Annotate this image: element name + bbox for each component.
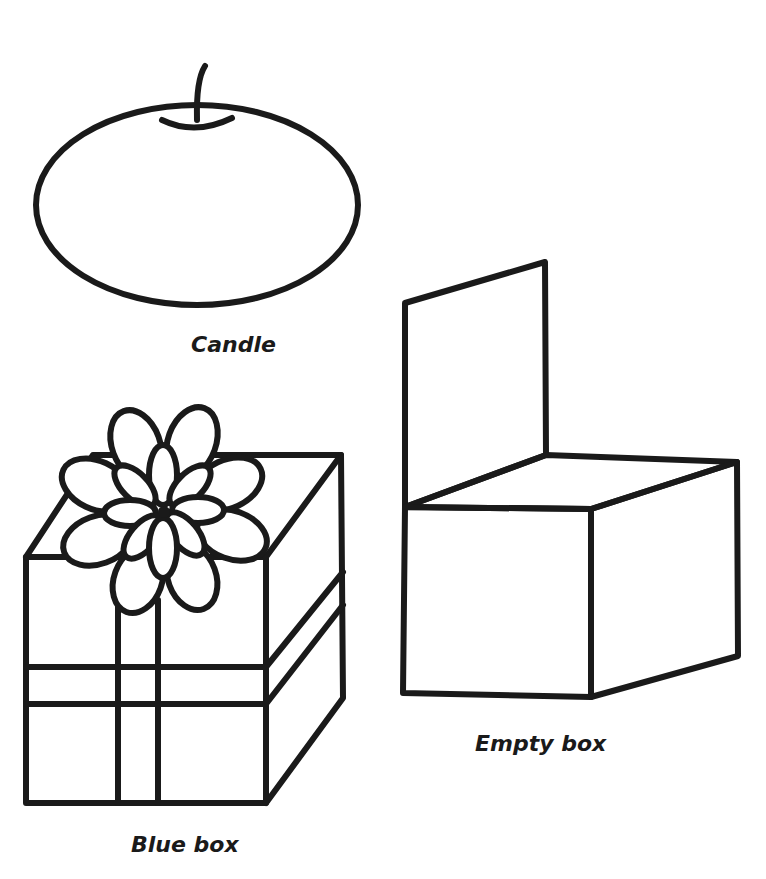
coloring-page bbox=[0, 0, 766, 879]
candle-wick bbox=[197, 66, 205, 120]
blue-box-label: Blue box bbox=[131, 832, 239, 857]
gift-bow bbox=[53, 400, 274, 620]
empty-box-drawing bbox=[403, 262, 738, 697]
candle-drawing bbox=[36, 66, 358, 305]
candle-body bbox=[36, 105, 358, 305]
empty-box-top-opening bbox=[405, 455, 737, 509]
empty-box-label: Empty box bbox=[475, 731, 606, 756]
empty-box-front bbox=[403, 507, 591, 697]
candle-label: Candle bbox=[191, 332, 276, 357]
bow-inner-petal bbox=[149, 518, 177, 578]
empty-box-lid bbox=[405, 262, 546, 507]
empty-box-side bbox=[591, 462, 738, 697]
blue-box-drawing bbox=[26, 400, 343, 803]
bow-center bbox=[161, 509, 167, 515]
